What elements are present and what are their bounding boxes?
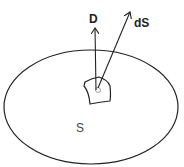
- vector-d-label: D: [89, 12, 98, 26]
- gauss-law-diagram: D dS S: [0, 0, 184, 167]
- vector-ds-label: dS: [134, 16, 149, 30]
- surface-element-patch: [84, 77, 111, 104]
- surface-label: S: [76, 121, 84, 135]
- closed-surface-ellipse: [4, 50, 178, 164]
